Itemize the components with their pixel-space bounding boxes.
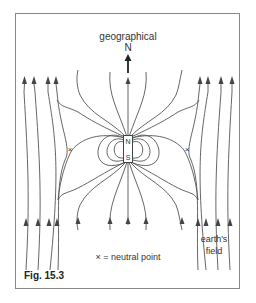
earth-field-label-line1: earth's xyxy=(201,234,228,244)
magnet-north-label: N xyxy=(125,138,130,145)
field-lines-south-fan xyxy=(58,162,198,230)
geographical-label: geographical xyxy=(99,31,156,42)
bar-magnet: N S xyxy=(124,136,133,163)
earth-field-label-line2: field xyxy=(206,246,223,256)
magnet-south-label: S xyxy=(126,154,131,161)
magnetic-field-diagram: geographical N xyxy=(0,0,256,303)
earth-field-lines-left xyxy=(22,76,67,270)
north-label: N xyxy=(124,42,131,53)
neutral-point-legend: × = neutral point xyxy=(95,252,161,262)
figure-caption: Fig. 15.3 xyxy=(24,270,64,281)
neutral-point-left-icon: × xyxy=(68,145,73,154)
north-arrow-icon xyxy=(125,54,132,73)
neutral-point-right-icon: × xyxy=(185,145,190,154)
